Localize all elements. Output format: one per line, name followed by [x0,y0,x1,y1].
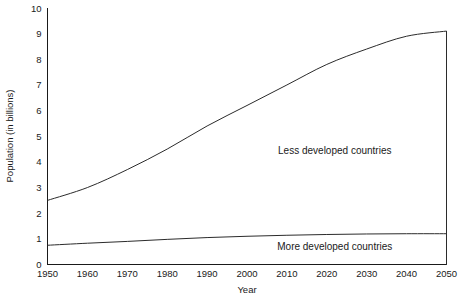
x-axis-tick-labels: 1950196019701980199020002010202020302040… [37,268,457,279]
y-tick-label: 1 [36,233,41,244]
y-axis-title: Population (in billions) [4,90,15,183]
x-tick-label: 1990 [197,268,218,279]
y-tick-label: 8 [36,54,41,65]
x-tick-label: 1950 [37,268,58,279]
y-tick-label: 6 [36,105,41,116]
annotation-less-developed: Less developed countries [278,145,391,156]
x-tick-label: 1980 [157,268,178,279]
y-axis-tick-labels: 109876543210 [31,3,42,271]
population-projection-chart: 109876543210 195019601970198019902000201… [0,0,465,301]
y-tick-label: 5 [36,131,41,142]
x-tick-label: 2010 [276,268,297,279]
annotation-more-developed: More developed countries [277,241,392,252]
x-tick-label: 1970 [117,268,138,279]
plot-background [47,8,446,264]
x-tick-label: 1960 [77,268,98,279]
y-tick-label: 10 [31,3,42,14]
y-tick-label: 2 [36,208,41,219]
y-tick-label: 4 [36,156,41,167]
x-tick-label: 2050 [436,268,457,279]
x-tick-label: 2040 [396,268,417,279]
chart-page: 109876543210 195019601970198019902000201… [0,0,465,301]
y-tick-label: 9 [36,28,41,39]
y-tick-label: 3 [36,182,41,193]
y-tick-label: 7 [36,79,41,90]
x-tick-label: 2030 [356,268,377,279]
x-tick-label: 2000 [236,268,257,279]
x-tick-label: 2020 [316,268,337,279]
x-axis-title: Year [237,284,256,295]
